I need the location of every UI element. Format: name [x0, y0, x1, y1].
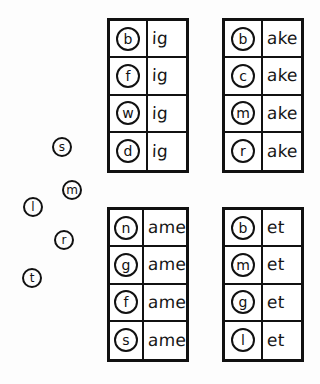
- rime-text: ig: [152, 105, 169, 122]
- table-row[interactable]: f ig: [110, 58, 186, 95]
- table-row[interactable]: m ake: [225, 96, 301, 133]
- onset-cell[interactable]: m: [225, 96, 263, 131]
- table-row[interactable]: b et: [225, 210, 301, 247]
- onset-cell[interactable]: b: [110, 21, 148, 56]
- onset-cell[interactable]: b: [225, 210, 263, 245]
- circled-letter: m: [231, 253, 255, 277]
- rime-cell[interactable]: ame: [144, 322, 186, 359]
- rime-cell[interactable]: et: [263, 210, 301, 245]
- circled-letter: s: [52, 137, 72, 157]
- rime-cell[interactable]: ake: [263, 58, 301, 93]
- loose-letter-token[interactable]: m: [62, 180, 82, 200]
- circled-letter: b: [231, 27, 255, 51]
- table-row[interactable]: r ake: [225, 133, 301, 170]
- rime-cell[interactable]: et: [263, 322, 301, 359]
- rime-cell[interactable]: ig: [148, 96, 186, 131]
- onset-cell[interactable]: n: [110, 210, 144, 245]
- onset-cell[interactable]: f: [110, 285, 144, 320]
- table-row[interactable]: c ake: [225, 58, 301, 95]
- rime-cell[interactable]: ig: [148, 21, 186, 56]
- circled-letter: c: [231, 64, 255, 88]
- circled-letter: g: [231, 290, 255, 314]
- table-row[interactable]: w ig: [110, 96, 186, 133]
- table-row[interactable]: n ame: [110, 210, 186, 247]
- word-family-table-et: b et m et g et l: [222, 207, 304, 362]
- circled-letter: s: [114, 328, 138, 352]
- rime-cell[interactable]: ig: [148, 133, 186, 170]
- onset-cell[interactable]: f: [110, 58, 148, 93]
- loose-letter-token[interactable]: t: [22, 268, 42, 288]
- rime-cell[interactable]: ake: [263, 21, 301, 56]
- loose-letter-token[interactable]: s: [52, 137, 72, 157]
- circled-letter: f: [114, 290, 138, 314]
- loose-letter-token[interactable]: r: [54, 230, 74, 250]
- rime-cell[interactable]: ame: [144, 285, 186, 320]
- circled-letter: r: [231, 139, 255, 163]
- onset-cell[interactable]: b: [225, 21, 263, 56]
- rime-text: et: [267, 219, 285, 236]
- circled-letter: l: [231, 328, 255, 352]
- circled-letter: b: [116, 27, 140, 51]
- circled-letter: l: [23, 197, 43, 217]
- table-row[interactable]: m et: [225, 247, 301, 284]
- rime-cell[interactable]: ake: [263, 133, 301, 170]
- rime-text: ame: [148, 219, 187, 236]
- loose-letter-token[interactable]: l: [23, 197, 43, 217]
- onset-cell[interactable]: g: [110, 247, 144, 282]
- table-row[interactable]: d ig: [110, 133, 186, 170]
- word-family-table-ig: b ig f ig w ig d: [107, 18, 189, 173]
- rime-cell[interactable]: ake: [263, 96, 301, 131]
- circled-letter: g: [114, 253, 138, 277]
- circled-letter: d: [116, 139, 140, 163]
- table-row[interactable]: b ake: [225, 21, 301, 58]
- onset-cell[interactable]: l: [225, 322, 263, 359]
- table-row[interactable]: l et: [225, 322, 301, 359]
- table-row[interactable]: g et: [225, 285, 301, 322]
- circled-letter: r: [54, 230, 74, 250]
- rime-cell[interactable]: ame: [144, 210, 186, 245]
- table-row[interactable]: s ame: [110, 322, 186, 359]
- rime-text: et: [267, 332, 285, 349]
- circled-letter: n: [114, 216, 138, 240]
- table-row[interactable]: b ig: [110, 21, 186, 58]
- onset-cell[interactable]: g: [225, 285, 263, 320]
- rime-text: ame: [148, 332, 187, 349]
- rime-text: ig: [152, 30, 169, 47]
- circled-letter: m: [231, 101, 255, 125]
- rime-text: ig: [152, 143, 169, 160]
- rime-text: et: [267, 256, 285, 273]
- rime-text: ame: [148, 256, 187, 273]
- rime-cell[interactable]: ame: [144, 247, 186, 282]
- rime-text: ame: [148, 294, 187, 311]
- table-row[interactable]: g ame: [110, 247, 186, 284]
- word-family-table-ake: b ake c ake m ake r: [222, 18, 304, 173]
- circled-letter: t: [22, 268, 42, 288]
- circled-letter: f: [116, 64, 140, 88]
- worksheet-canvas: b ig f ig w ig d: [0, 0, 320, 384]
- rime-text: ig: [152, 67, 169, 84]
- circled-letter: m: [62, 180, 82, 200]
- rime-text: ake: [267, 143, 298, 160]
- rime-text: ake: [267, 105, 298, 122]
- onset-cell[interactable]: s: [110, 322, 144, 359]
- rime-cell[interactable]: et: [263, 285, 301, 320]
- onset-cell[interactable]: r: [225, 133, 263, 170]
- rime-cell[interactable]: et: [263, 247, 301, 282]
- rime-text: ake: [267, 67, 298, 84]
- word-family-table-ame: n ame g ame f ame s: [107, 207, 189, 362]
- onset-cell[interactable]: c: [225, 58, 263, 93]
- onset-cell[interactable]: w: [110, 96, 148, 131]
- rime-text: ake: [267, 30, 298, 47]
- rime-text: et: [267, 294, 285, 311]
- table-row[interactable]: f ame: [110, 285, 186, 322]
- onset-cell[interactable]: m: [225, 247, 263, 282]
- circled-letter: b: [231, 216, 255, 240]
- onset-cell[interactable]: d: [110, 133, 148, 170]
- rime-cell[interactable]: ig: [148, 58, 186, 93]
- circled-letter: w: [116, 101, 140, 125]
